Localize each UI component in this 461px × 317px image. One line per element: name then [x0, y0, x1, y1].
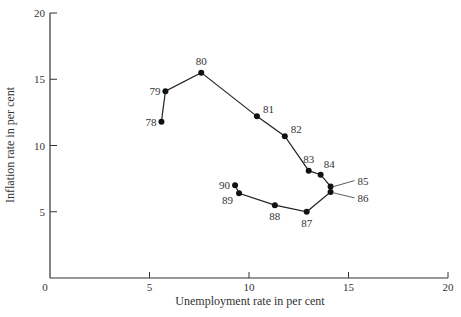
series-line: [161, 73, 330, 212]
point-label: 82: [291, 123, 302, 135]
data-point: [162, 88, 168, 94]
point-label: 85: [358, 175, 370, 187]
point-label: 80: [196, 55, 208, 67]
data-line: [161, 73, 330, 212]
point-label: 89: [222, 194, 234, 206]
data-point: [306, 168, 312, 174]
point-label: 81: [263, 103, 274, 115]
point-labels: 78798081828384858687888990: [145, 55, 369, 229]
data-point: [328, 184, 334, 190]
point-label: 87: [301, 217, 313, 229]
data-point: [304, 209, 310, 215]
point-label: 86: [358, 192, 370, 204]
leader-line: [334, 193, 355, 198]
axes: [50, 13, 448, 278]
y-tick-label: 5: [40, 206, 46, 218]
data-point: [158, 119, 164, 125]
x-tick-label: 20: [443, 281, 455, 293]
data-point: [254, 113, 260, 119]
data-point: [198, 70, 204, 76]
data-point: [282, 133, 288, 139]
leader-line: [334, 181, 355, 187]
x-axis-label: Unemployment rate in per cent: [175, 294, 325, 308]
data-point: [328, 189, 334, 195]
ticks: 051015205101520: [34, 7, 454, 293]
y-tick-label: 15: [34, 73, 46, 85]
y-tick-label: 10: [34, 140, 46, 152]
data-point: [236, 190, 242, 196]
phillips-curve-chart: 051015205101520 Unemployment rate in per…: [0, 0, 461, 317]
point-label: 79: [149, 85, 161, 97]
data-points: [158, 70, 333, 215]
y-tick-label: 20: [34, 7, 46, 19]
x-tick-label: 5: [147, 281, 153, 293]
point-label: 84: [324, 158, 336, 170]
x-tick-label: 0: [42, 281, 48, 293]
y-axis-label: Inflation rate in per cent: [3, 86, 17, 203]
data-point: [318, 172, 324, 178]
x-tick-label: 15: [343, 281, 355, 293]
x-tick-label: 10: [244, 281, 256, 293]
point-label: 78: [145, 116, 157, 128]
data-point: [272, 202, 278, 208]
point-label: 83: [303, 153, 315, 165]
point-label: 90: [219, 179, 231, 191]
data-point: [232, 182, 238, 188]
point-label: 88: [269, 210, 281, 222]
